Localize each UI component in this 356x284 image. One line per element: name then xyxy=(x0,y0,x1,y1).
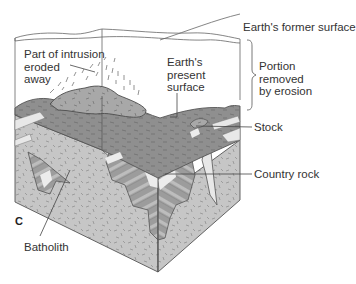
batholith-text: Batholith xyxy=(24,241,69,254)
label-batholith: Batholith xyxy=(24,241,69,254)
portion-line-1: Portion xyxy=(259,60,312,73)
present-line-2: present xyxy=(167,69,205,82)
label-country-rock: Country rock xyxy=(254,168,319,181)
present-line-1: Earth's xyxy=(167,56,205,69)
label-present-surface: Earth's present surface xyxy=(167,56,205,94)
label-stock: Stock xyxy=(254,121,283,134)
country-rock-text: Country rock xyxy=(254,168,319,181)
label-eroded-intrusion: Part of intrusion eroded away xyxy=(24,48,105,86)
stock-text: Stock xyxy=(254,121,283,134)
eroded-line-3: away xyxy=(24,73,105,86)
erosion-bracket xyxy=(247,40,256,110)
label-former-surface: Earth's former surface xyxy=(243,21,356,34)
former-surface-text: Earth's former surface xyxy=(243,21,356,34)
portion-line-3: by erosion xyxy=(259,85,312,98)
eroded-line-2: eroded xyxy=(24,61,105,74)
eroded-line-1: Part of intrusion xyxy=(24,48,105,61)
present-line-3: surface xyxy=(167,81,205,94)
portion-line-2: removed xyxy=(259,73,312,86)
label-portion-removed: Portion removed by erosion xyxy=(259,60,312,98)
panel-letter: C xyxy=(15,215,23,227)
